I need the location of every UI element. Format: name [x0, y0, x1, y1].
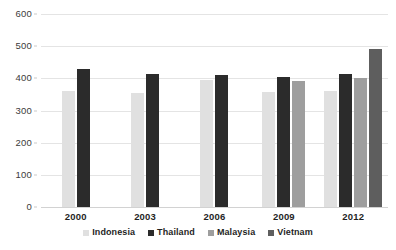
y-axis-tick-mark [34, 14, 37, 15]
bar-indonesia-2012 [324, 91, 337, 207]
legend-item-thailand[interactable]: Thailand [148, 228, 195, 237]
legend-swatch-icon [208, 230, 214, 236]
bar-thailand-2006 [215, 75, 228, 207]
x-axis-tick-label-2003: 2003 [134, 212, 156, 222]
legend-item-vietnam[interactable]: Vietnam [268, 228, 313, 237]
legend-label: Indonesia [92, 228, 135, 237]
y-axis-tick-label: 500 [16, 41, 32, 51]
gridline-0 [41, 207, 388, 208]
y-axis-tick-label: 100 [16, 170, 32, 180]
chart-legend: IndonesiaThailandMalaysiaVietnam [0, 228, 396, 237]
y-axis-tick-label: 300 [16, 106, 32, 116]
x-axis-tick-label-2009: 2009 [273, 212, 295, 222]
bar-thailand-2009 [277, 77, 290, 207]
bar-malaysia-2009 [292, 81, 305, 207]
y-axis-tick-mark [34, 110, 37, 111]
legend-label: Malaysia [217, 228, 255, 237]
y-axis-tick-mark [34, 46, 37, 47]
bar-group-2003 [110, 14, 179, 207]
bar-indonesia-2009 [262, 92, 275, 207]
bar-chart: 0100200300400500600 20002003200620092012… [0, 0, 396, 250]
x-axis-tick-label-2006: 2006 [204, 212, 226, 222]
legend-swatch-icon [83, 230, 89, 236]
y-axis-tick-label: 400 [16, 74, 32, 84]
legend-swatch-icon [148, 230, 154, 236]
legend-item-indonesia[interactable]: Indonesia [83, 228, 135, 237]
bar-thailand-2000 [77, 69, 90, 207]
y-axis-tick-mark [34, 207, 37, 208]
bar-indonesia-2006 [200, 80, 213, 207]
y-axis-tick-label: 600 [16, 9, 32, 19]
bar-indonesia-2003 [131, 93, 144, 207]
x-axis-tick-label-2000: 2000 [65, 212, 87, 222]
bar-thailand-2012 [339, 74, 352, 207]
bar-thailand-2003 [146, 74, 159, 207]
y-axis-tick-mark [34, 78, 37, 79]
x-axis-tick-label-2012: 2012 [342, 212, 364, 222]
legend-label: Vietnam [277, 228, 313, 237]
legend-label: Thailand [157, 228, 195, 237]
y-axis-tick-label: 200 [16, 138, 32, 148]
y-axis: 0100200300400500600 [0, 0, 38, 250]
plot-area [41, 14, 388, 207]
bar-group-2012 [319, 14, 388, 207]
y-axis-tick-mark [34, 174, 37, 175]
bar-indonesia-2000 [62, 91, 75, 207]
bar-group-2000 [41, 14, 110, 207]
bar-malaysia-2012 [354, 78, 367, 207]
bar-group-2009 [249, 14, 318, 207]
bar-group-2006 [180, 14, 249, 207]
x-axis: 20002003200620092012 [41, 209, 388, 227]
bar-vietnam-2012 [369, 49, 382, 207]
legend-item-malaysia[interactable]: Malaysia [208, 228, 255, 237]
y-axis-tick-mark [34, 142, 37, 143]
legend-swatch-icon [268, 230, 274, 236]
y-axis-tick-label: 0 [27, 202, 32, 212]
